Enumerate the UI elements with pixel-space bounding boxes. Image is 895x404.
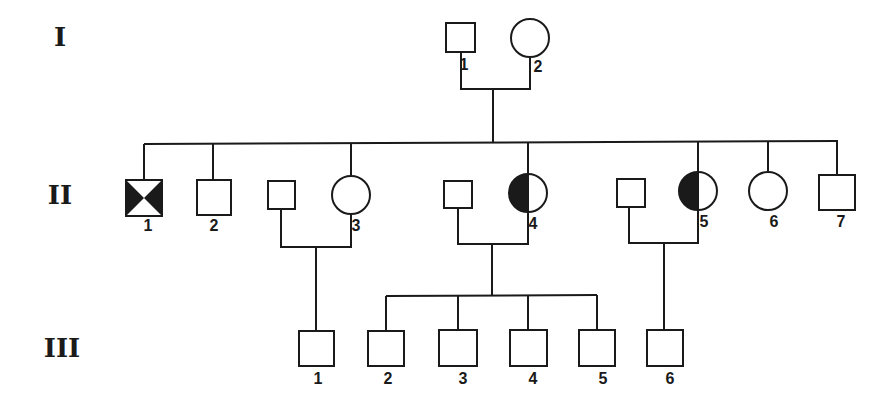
individual-III-3 (439, 330, 477, 366)
individual-number-I-1: 1 (460, 56, 469, 73)
individual-number-III-1: 1 (314, 370, 323, 387)
individual-number-II-1: 1 (144, 217, 153, 234)
individual-II-4 (509, 174, 547, 212)
connector-lines (144, 52, 838, 331)
individual-number-II-6: 6 (770, 213, 779, 230)
individual-I-2 (511, 19, 549, 57)
individual-II-2 (197, 180, 231, 215)
pedigree-diagram: I II III 121234567123456 (0, 0, 895, 404)
male-square-icon (197, 180, 231, 215)
male-square-icon (268, 181, 295, 209)
male-square-icon (439, 330, 477, 366)
individual-III-6 (647, 330, 683, 366)
male-square-icon (647, 330, 683, 366)
individual-II-6 (749, 172, 787, 210)
connector-III-sibship-line (386, 295, 597, 296)
individual-number-III-5: 5 (599, 370, 608, 387)
male-square-icon (368, 331, 404, 366)
individual-I-1 (446, 23, 475, 52)
individual-II-3 (332, 176, 370, 214)
individual-number-II-7: 7 (837, 213, 846, 230)
female-circle-icon (511, 19, 549, 57)
left-half-fill-icon (509, 174, 528, 212)
individual-II-7 (819, 175, 855, 210)
individual-II-4-spouse (444, 181, 472, 208)
individual-II-3-spouse (268, 181, 295, 209)
generation-label-I: I (54, 22, 66, 52)
left-half-fill-icon (679, 172, 698, 210)
male-square-icon (446, 23, 475, 52)
individual-III-4 (510, 330, 547, 366)
connector-II-3-mating (281, 209, 351, 247)
female-circle-icon (749, 172, 787, 210)
individual-II-1 (126, 180, 162, 216)
male-square-icon (579, 330, 615, 366)
individual-number-III-3: 3 (459, 370, 468, 387)
individual-number-II-4: 4 (529, 215, 538, 232)
male-square-icon (819, 175, 855, 210)
individual-III-1 (299, 331, 334, 366)
male-square-icon (617, 179, 645, 207)
male-square-icon (299, 331, 334, 366)
individual-number-II-5: 5 (700, 213, 709, 230)
generation-label-III: III (44, 333, 81, 363)
connector-II-4-mating (458, 208, 528, 244)
individuals (126, 19, 855, 366)
individual-III-2 (368, 331, 404, 366)
connector-II-sibship-line (144, 141, 838, 144)
individual-number-II-2: 2 (210, 217, 219, 234)
individual-II-5 (679, 172, 717, 210)
connector-II-5-mating (629, 207, 698, 243)
individual-II-5-spouse (617, 179, 645, 207)
generation-label-II: II (48, 180, 72, 210)
individual-number-III-4: 4 (529, 370, 538, 387)
male-square-icon (444, 181, 472, 208)
individual-III-5 (579, 330, 615, 366)
individual-number-III-6: 6 (666, 370, 675, 387)
individual-number-III-2: 2 (384, 370, 393, 387)
individual-number-II-3: 3 (352, 217, 361, 234)
male-square-icon (510, 330, 547, 366)
individual-number-I-2: 2 (534, 58, 543, 75)
female-circle-icon (332, 176, 370, 214)
